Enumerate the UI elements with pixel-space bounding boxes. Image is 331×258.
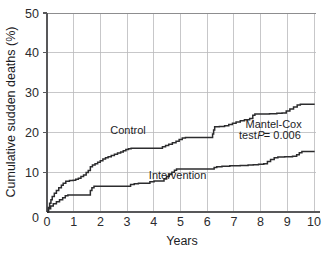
figure-container: 50 40 30 20 10 0 0 1 2 3 4 5 6 7 8 9 10 …	[0, 0, 331, 258]
annotation-p-value: = 0.006	[264, 129, 301, 141]
annotation-p-value-prefix: test	[239, 129, 257, 141]
y-tick-label-20: 20	[25, 126, 39, 140]
series-label-intervention: Intervention	[149, 169, 206, 181]
series-label-control: Control	[110, 124, 145, 136]
x-tick-label-2: 2	[97, 215, 104, 229]
y-axis-title: Cumulative sudden deaths (%)	[4, 27, 18, 198]
x-tick-label-9: 9	[284, 215, 291, 229]
figure-caption-partial	[0, 246, 331, 258]
y-tick-label-0: 0	[32, 211, 39, 225]
x-tick-label-7: 7	[230, 215, 237, 229]
x-tick-label-5: 5	[177, 215, 184, 229]
y-tick-label-40: 40	[25, 46, 39, 60]
annotation-mantel-cox-test-name: Mantel-Cox	[246, 118, 303, 130]
plot-background	[47, 13, 316, 212]
x-tick-label-1: 1	[70, 215, 77, 229]
x-tick-label-10: 10	[307, 215, 321, 229]
y-tick-label-30: 30	[25, 86, 39, 100]
x-tick-label-6: 6	[204, 215, 211, 229]
x-tick-label-3: 3	[124, 215, 131, 229]
survival-curve-chart: 50 40 30 20 10 0 0 1 2 3 4 5 6 7 8 9 10 …	[0, 0, 331, 258]
y-tick-marks	[43, 13, 48, 172]
y-tick-label-50: 50	[25, 7, 39, 21]
x-tick-label-0: 0	[44, 215, 51, 229]
x-tick-label-4: 4	[150, 215, 157, 229]
x-tick-label-8: 8	[257, 215, 264, 229]
y-tick-label-10: 10	[25, 166, 39, 180]
